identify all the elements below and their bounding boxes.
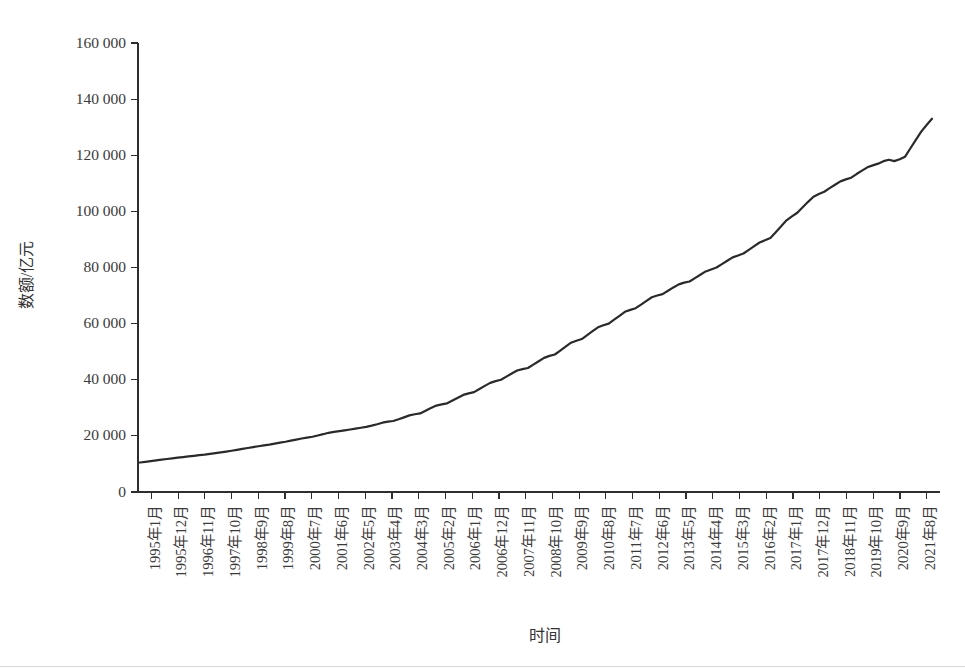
x-tick-label: 1998年9月 <box>254 506 270 570</box>
x-tick-label: 2006年12月 <box>494 506 510 578</box>
x-tick-label: 2016年2月 <box>762 506 778 570</box>
x-tick-label: 2003年4月 <box>387 506 403 570</box>
y-tick-label: 120 000 <box>76 146 127 163</box>
y-tick-label: 140 000 <box>76 90 127 107</box>
x-tick-label: 2018年11月 <box>842 506 858 577</box>
y-tick-label: 20 000 <box>83 426 126 443</box>
y-tick-label: 40 000 <box>83 370 126 387</box>
x-tick-label: 1995年12月 <box>173 506 189 578</box>
y-tick-label: 60 000 <box>83 314 126 331</box>
x-tick-label: 2001年6月 <box>334 506 350 570</box>
x-tick-label: 2000年7月 <box>307 506 323 570</box>
x-tick-label: 2007年11月 <box>521 506 537 577</box>
y-axis-title: 数额/亿元 <box>18 241 35 309</box>
x-tick-label: 2017年1月 <box>788 506 804 570</box>
x-tick-label: 1997年10月 <box>227 506 243 578</box>
x-tick-label: 2010年8月 <box>601 506 617 570</box>
x-tick-label: 2008年10月 <box>548 506 564 578</box>
x-tick-label: 2006年1月 <box>467 506 483 570</box>
x-tick-label: 2012年6月 <box>655 506 671 570</box>
y-tick-label: 0 <box>118 483 126 500</box>
x-axis-title: 时间 <box>529 627 561 644</box>
x-tick-label: 2013年5月 <box>681 506 697 570</box>
data-series-line <box>140 119 932 463</box>
x-tick-label: 1999年8月 <box>280 506 296 570</box>
x-tick-label: 2017年12月 <box>815 506 831 578</box>
x-tick-label: 2005年2月 <box>441 506 457 570</box>
y-tick-label: 80 000 <box>83 258 126 275</box>
x-tick-label: 2004年3月 <box>414 506 430 570</box>
x-tick-label: 2011年7月 <box>628 506 644 570</box>
y-tick-label: 160 000 <box>76 34 127 51</box>
x-tick-label: 2014年4月 <box>708 506 724 570</box>
x-tick-label: 2020年9月 <box>895 506 911 570</box>
line-chart-figure: 020 00040 00060 00080 000100 000120 0001… <box>0 0 965 669</box>
x-tick-label: 2009年9月 <box>574 506 590 570</box>
y-tick-label: 100 000 <box>76 202 127 219</box>
chart-axes <box>138 43 940 492</box>
x-tick-label: 2002年5月 <box>361 506 377 570</box>
x-tick-label: 2015年3月 <box>735 506 751 570</box>
x-tick-label: 2019年10月 <box>868 506 884 578</box>
x-tick-label: 2021年8月 <box>922 506 938 570</box>
x-tick-label: 1996年11月 <box>200 506 216 577</box>
x-tick-label: 1995年1月 <box>147 506 163 570</box>
